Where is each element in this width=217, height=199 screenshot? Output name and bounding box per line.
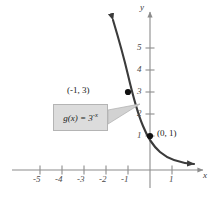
- y-tick-label: 1: [137, 130, 142, 140]
- function-label-base: g(x) = 3: [63, 113, 93, 123]
- x-tick-label: -4: [55, 174, 63, 184]
- x-tick-label: -1: [121, 174, 129, 184]
- callout-pointer: [108, 104, 140, 124]
- x-tick-label: -3: [77, 174, 85, 184]
- function-callout: g(x) = 3-x: [53, 104, 108, 131]
- x-tick-label: -5: [33, 174, 41, 184]
- graph-figure: -5 -4 -3 -2 -1 1 1 2 3 4 5 x y (-1, 3) (…: [0, 0, 217, 199]
- coordinate-plane: [0, 0, 217, 199]
- point-label-0-1: (0, 1): [157, 128, 177, 138]
- x-tick-label: 1: [169, 174, 174, 184]
- y-axis-label: y: [140, 2, 144, 12]
- data-point-marker: [147, 133, 153, 139]
- point-label-minus1-3: (-1, 3): [67, 85, 90, 95]
- function-label-exponent: -x: [93, 111, 98, 118]
- x-axis-label: x: [203, 170, 207, 180]
- x-tick-label: -2: [99, 174, 107, 184]
- y-tick-label: 5: [137, 42, 142, 52]
- y-tick-label: 2: [137, 108, 142, 118]
- function-callout-text: g(x) = 3-x: [63, 113, 98, 123]
- y-tick-label: 4: [137, 64, 142, 74]
- y-tick-label: 3: [137, 86, 142, 96]
- data-point-marker: [125, 89, 131, 95]
